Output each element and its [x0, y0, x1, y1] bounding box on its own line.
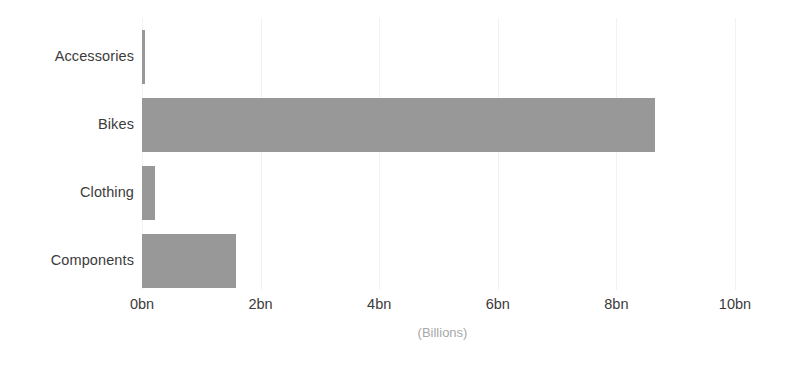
- category-axis: AccessoriesBikesClothingComponents: [0, 18, 134, 290]
- x-tick-label: 2bn: [221, 296, 301, 312]
- bar-row: [142, 30, 145, 84]
- gridline: [498, 18, 499, 290]
- category-label-bikes: Bikes: [0, 116, 134, 132]
- gridline: [261, 18, 262, 290]
- bar-bikes[interactable]: [142, 98, 655, 152]
- bar-row: [142, 166, 155, 220]
- gridline: [379, 18, 380, 290]
- x-tick-label: 0bn: [102, 296, 182, 312]
- x-tick-label: 10bn: [695, 296, 775, 312]
- x-tick-label: 6bn: [458, 296, 538, 312]
- bar-accessories[interactable]: [142, 30, 145, 84]
- x-tick-label: 8bn: [576, 296, 656, 312]
- bar-chart: AccessoriesBikesClothingComponents (Bill…: [0, 0, 791, 365]
- plot-area: [142, 18, 762, 290]
- bar-row: [142, 234, 236, 288]
- category-label-clothing: Clothing: [0, 184, 134, 200]
- gridline: [616, 18, 617, 290]
- bar-components[interactable]: [142, 234, 236, 288]
- category-label-components: Components: [0, 252, 134, 268]
- x-axis-title-text: (Billions): [418, 325, 468, 340]
- category-label-accessories: Accessories: [0, 48, 134, 64]
- x-tick-label: 4bn: [339, 296, 419, 312]
- gridline: [735, 18, 736, 290]
- bar-clothing[interactable]: [142, 166, 155, 220]
- bar-row: [142, 98, 655, 152]
- x-axis-title: (Billions): [0, 325, 791, 340]
